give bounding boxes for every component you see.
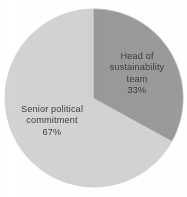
- pie-label-value: 33%: [100, 85, 174, 96]
- pie-chart-svg: [0, 0, 187, 197]
- pie-label-line: team: [100, 74, 174, 85]
- pie-label-value: 67%: [8, 127, 96, 138]
- pie-label-senior-political-commitment: Senior political commitment 67%: [8, 104, 96, 138]
- pie-label-line: Head of: [100, 51, 174, 62]
- pie-chart-screenshot: Head of sustainability team 33% Senior p…: [0, 0, 187, 197]
- pie-label-line: sustainability: [100, 62, 174, 73]
- pie-label-head-of-sustainability-team: Head of sustainability team 33%: [100, 51, 174, 97]
- pie-label-line: commitment: [8, 115, 96, 126]
- pie-chart-figure: Head of sustainability team 33% Senior p…: [0, 0, 187, 197]
- pie-label-line: Senior political: [8, 104, 96, 115]
